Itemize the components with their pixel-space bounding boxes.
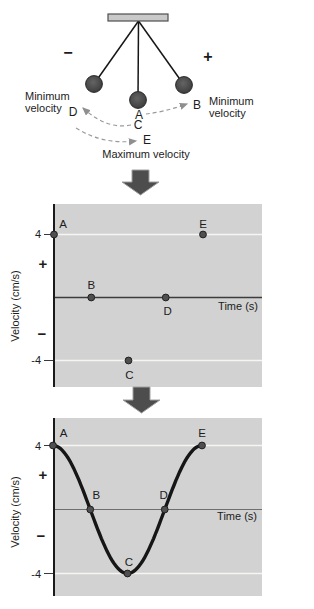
velocity-curve-graph: 4 -4 + − Velocity (cm/s) Time (s) ABCDE xyxy=(9,418,262,596)
data-point-label-B: B xyxy=(87,279,95,291)
data-point-D xyxy=(161,506,168,513)
data-point-label-A: A xyxy=(60,427,68,439)
pendulum-string-center xyxy=(138,21,139,100)
pendulum-diagram: − + Minimum velocity Minimum velocity D … xyxy=(25,14,254,160)
down-arrow-icon-2 xyxy=(123,387,160,413)
pendulum-ball-center xyxy=(130,92,147,109)
data-point-label-E: E xyxy=(199,218,207,230)
data-point-A xyxy=(51,231,58,238)
pendulum-ball-left xyxy=(86,76,103,93)
min-velocity-left-line2: velocity xyxy=(25,102,62,114)
min-velocity-right-line2: velocity xyxy=(209,107,246,119)
data-point-E xyxy=(200,231,207,238)
data-point-label-A: A xyxy=(59,218,67,230)
pendulum-ball-right xyxy=(176,77,193,94)
data-point-D xyxy=(162,294,169,301)
graph1-ytick-bottom: -4 xyxy=(31,354,41,366)
pendulum-label-E: E xyxy=(143,133,151,147)
graph1-xlabel: Time (s) xyxy=(218,300,258,312)
data-point-C xyxy=(124,570,131,577)
plus-sign-label: + xyxy=(203,48,212,65)
graph1-plus-sign: + xyxy=(39,255,48,272)
data-point-label-D: D xyxy=(164,305,172,317)
data-point-C xyxy=(125,357,132,364)
swing-arc-a-to-b xyxy=(146,104,187,114)
data-point-label-C: C xyxy=(125,369,133,381)
pendulum-velocity-figure: − + Minimum velocity Minimum velocity D … xyxy=(0,0,314,609)
graph1-plot-area xyxy=(53,204,262,387)
pendulum-string-left xyxy=(94,21,139,84)
min-velocity-left-line1: Minimum xyxy=(25,90,70,102)
data-point-label-B: B xyxy=(92,489,100,501)
figure-canvas: − + Minimum velocity Minimum velocity D … xyxy=(0,0,314,609)
graph1-ytick-top: 4 xyxy=(35,228,41,240)
graph1-ylabel: Velocity (cm/s) xyxy=(9,270,21,342)
data-point-A xyxy=(50,442,57,449)
graph2-ylabel: Velocity (cm/s) xyxy=(9,476,21,548)
graph2-ytick-top: 4 xyxy=(35,440,41,452)
graph1-minus-sign: − xyxy=(38,325,47,342)
minus-sign-label: − xyxy=(63,44,72,61)
pendulum-label-D: D xyxy=(69,105,78,119)
velocity-scatter-graph: 4 -4 + − Velocity (cm/s) Time (s) ABCDE xyxy=(9,204,262,387)
data-point-label-C: C xyxy=(125,556,133,568)
data-point-E xyxy=(199,442,206,449)
data-point-B xyxy=(87,506,94,513)
down-arrow-icon-1 xyxy=(122,170,159,195)
data-point-label-D: D xyxy=(160,489,168,501)
swing-arc-d-to-e xyxy=(76,128,136,142)
graph2-ytick-bottom: -4 xyxy=(31,568,41,580)
min-velocity-right-line1: Minimum xyxy=(209,95,254,107)
pendulum-string-right xyxy=(139,21,185,85)
graph2-xlabel: Time (s) xyxy=(217,510,257,522)
data-point-label-E: E xyxy=(198,427,206,439)
graph2-plus-sign: + xyxy=(39,466,48,483)
pendulum-support-bar xyxy=(108,14,168,21)
data-point-B xyxy=(88,294,95,301)
max-velocity-caption: Maximum velocity xyxy=(102,148,190,160)
graph2-minus-sign: − xyxy=(37,527,46,544)
pendulum-label-B: B xyxy=(193,98,201,112)
swing-arc-c-to-d xyxy=(83,108,131,126)
pendulum-label-C: C xyxy=(134,118,143,132)
